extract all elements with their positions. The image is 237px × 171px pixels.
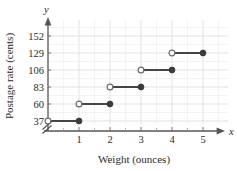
x-tick-label-2: 2 (107, 134, 112, 145)
x-tick-label-5: 5 (200, 134, 205, 145)
x-axis-symbol: x (228, 126, 234, 137)
open-point-4-129 (169, 50, 175, 56)
y-tick-labels: 152 129 106 83 60 37 (28, 31, 44, 127)
closed-point-5-129 (200, 50, 206, 56)
y-tick-label-129: 129 (28, 48, 44, 59)
open-point-2-83 (107, 84, 113, 90)
y-tick-label-152: 152 (28, 31, 44, 42)
y-tick-label-106: 106 (28, 65, 44, 76)
closed-point-2-60 (107, 101, 113, 107)
y-tick-label-60: 60 (34, 99, 45, 110)
closed-point-3-83 (138, 84, 144, 90)
x-axis (44, 128, 225, 135)
y-axis-symbol: y (43, 4, 49, 15)
x-axis-title: Weight (ounces) (98, 153, 170, 166)
x-tick-label-3: 3 (138, 134, 143, 145)
y-axis-arrowhead (45, 17, 52, 25)
open-point-0-37 (45, 118, 51, 124)
open-point-3-106 (138, 67, 144, 73)
y-axis-title: Postage rate (cents) (3, 33, 16, 119)
x-axis-arrowhead (217, 128, 225, 135)
x-tick-labels: 1 2 3 4 5 (76, 134, 205, 145)
postage-rate-step-chart: 152 129 106 83 60 37 1 2 3 4 5 y x Weigh… (0, 0, 237, 171)
x-tick-label-4: 4 (169, 134, 175, 145)
chart-svg: 152 129 106 83 60 37 1 2 3 4 5 y x Weigh… (0, 0, 237, 171)
open-point-1-60 (76, 101, 82, 107)
closed-point-1-37 (76, 118, 82, 124)
y-tick-label-83: 83 (34, 82, 45, 93)
x-tick-label-1: 1 (76, 134, 81, 145)
y-axis (45, 17, 52, 131)
y-tick-label-37: 37 (34, 116, 45, 127)
closed-point-4-106 (169, 67, 175, 73)
